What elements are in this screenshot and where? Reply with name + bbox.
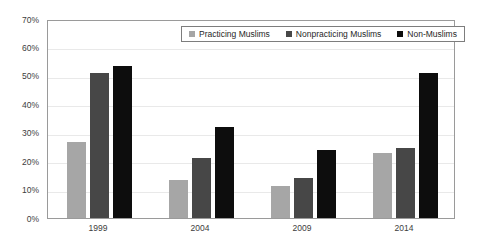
legend-swatch-icon [286, 31, 292, 37]
y-axis-tick-label: 20% [22, 158, 39, 167]
gridline [48, 106, 454, 107]
legend-swatch-icon [397, 31, 403, 37]
chart-legend: Practicing MuslimsNonpracticing MuslimsN… [181, 26, 465, 42]
gridline [48, 192, 454, 193]
bar [294, 178, 313, 218]
legend-swatch-icon [189, 31, 195, 37]
x-axis-tick-label: 2009 [293, 224, 312, 233]
y-axis-tick-label: 10% [22, 186, 39, 195]
x-axis-tick-label: 2014 [395, 224, 414, 233]
y-axis-tick-label: 50% [22, 72, 39, 81]
bar-chart: 0%10%20%30%40%50%60%70% 1999200420092014… [0, 0, 477, 251]
y-axis-tick-label: 70% [22, 16, 39, 25]
gridline [48, 135, 454, 136]
bar [419, 73, 438, 218]
legend-item: Nonpracticing Muslims [286, 30, 382, 39]
legend-item: Non-Muslims [397, 30, 457, 39]
x-axis-tick-label: 2004 [191, 224, 210, 233]
bar [271, 186, 290, 218]
bar [215, 127, 234, 218]
y-axis-tick-label: 0% [27, 215, 39, 224]
bar [373, 153, 392, 218]
bar [317, 150, 336, 218]
x-axis-tick-label: 1999 [89, 224, 108, 233]
gridline [48, 49, 454, 50]
legend-label: Practicing Muslims [199, 30, 270, 39]
bar [113, 66, 132, 218]
y-axis-tick-label: 40% [22, 101, 39, 110]
gridline [48, 78, 454, 79]
y-axis: 0%10%20%30%40%50%60%70% [0, 0, 44, 251]
bar [192, 158, 211, 218]
bar [396, 148, 415, 218]
y-axis-tick-label: 60% [22, 44, 39, 53]
bar [90, 73, 109, 218]
y-axis-tick-label: 30% [22, 129, 39, 138]
legend-item: Practicing Muslims [189, 30, 270, 39]
bar [169, 180, 188, 218]
legend-label: Nonpracticing Muslims [296, 30, 382, 39]
plot-area [47, 20, 455, 219]
bar [67, 142, 86, 218]
gridline [48, 163, 454, 164]
legend-label: Non-Muslims [407, 30, 457, 39]
x-axis: 1999200420092014 [47, 224, 455, 240]
